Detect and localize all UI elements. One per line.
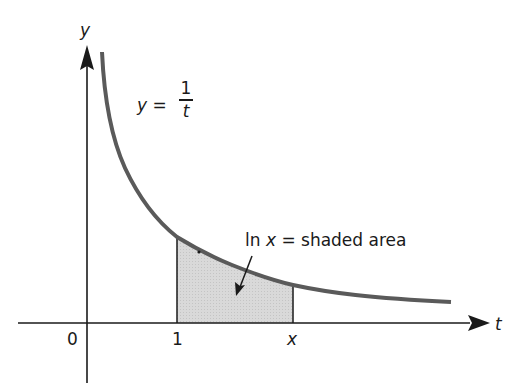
curve-reciprocal [102, 52, 451, 302]
annotation-ln: ln [245, 230, 261, 250]
t-axis-label: t [495, 316, 502, 333]
annotation-label: ln x = shaded area [245, 232, 406, 249]
curve-label-fraction: 1 t [179, 80, 193, 120]
fraction-denominator: t [183, 101, 190, 120]
t-axis-arrow-icon [468, 315, 490, 331]
annotation-var: x [266, 230, 276, 250]
fraction-numerator: 1 [181, 80, 192, 99]
y-axis-label: y [80, 22, 90, 39]
curve-dot [197, 250, 200, 253]
origin-label: 0 [67, 331, 78, 348]
annotation-suffix: = shaded area [281, 230, 406, 250]
tick-label-x: x [287, 331, 297, 348]
tick-label-1: 1 [172, 331, 183, 348]
curve-label-lhs: y = [137, 97, 167, 114]
